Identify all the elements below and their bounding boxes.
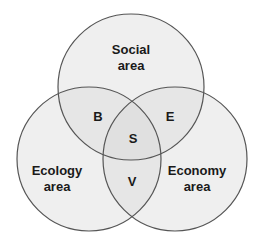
economy-area-label: Economy area: [164, 163, 230, 195]
region-b-social-ecology: B: [88, 110, 108, 124]
ecology-label-line2: area: [27, 179, 87, 195]
economy-label-line2: area: [164, 179, 230, 195]
region-e-social-economy: E: [160, 110, 180, 124]
social-label-line1: Social: [106, 42, 156, 58]
economy-circle-fill: [103, 87, 247, 231]
ecology-label-line1: Ecology: [27, 163, 87, 179]
region-v-ecology-economy: V: [122, 175, 142, 189]
social-label-line2: area: [106, 58, 156, 74]
venn-diagram: [0, 0, 260, 247]
economy-label-line1: Economy: [164, 163, 230, 179]
region-s-all-three: S: [123, 132, 143, 146]
social-area-label: Social area: [106, 42, 156, 74]
ecology-area-label: Ecology area: [27, 163, 87, 195]
